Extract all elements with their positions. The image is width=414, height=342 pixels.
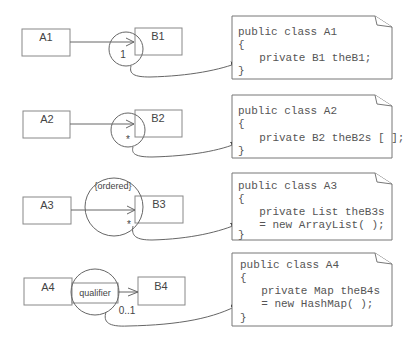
code-link-curve-1 (131, 62, 240, 77)
association-row-1: A1 B1 1 public class A1 { private B1 the… (22, 16, 392, 79)
association-row-4: A4 qualifier B4 0..1 public class A4 { p… (24, 253, 392, 326)
association-row-2: A2 B2 * public class A2 { private B2 the… (23, 95, 404, 158)
code-line: private List theB3s (246, 206, 385, 218)
code-line: public class A1 (238, 26, 337, 38)
code-line: public class A4 (240, 259, 339, 271)
class-label-b2: B2 (151, 112, 164, 124)
code-line: private Map theB4s (248, 285, 380, 297)
code-line: { (238, 39, 245, 51)
multiplicity-label-4: 0..1 (119, 305, 136, 316)
code-line: } (238, 65, 245, 77)
class-label-b1: B1 (151, 30, 164, 42)
class-label-a3: A3 (40, 199, 53, 211)
code-note-a3: public class A3 { private List theB3s = … (232, 173, 392, 241)
code-line: { (240, 272, 247, 284)
code-line: { (238, 118, 245, 130)
class-label-a1: A1 (39, 31, 52, 43)
association-row-3: A3 B3 {ordered} * public class A3 { priv… (23, 173, 392, 241)
code-line: private B1 theB1; (246, 52, 371, 64)
multiplicity-label-1: 1 (120, 49, 126, 60)
code-line: = new HashMap( ); (248, 298, 373, 310)
code-line: } (240, 312, 247, 324)
code-line: } (238, 229, 245, 241)
qualifier-label: qualifier (79, 288, 111, 298)
code-line: } (238, 145, 245, 157)
code-line: private B2 theB2s [ ]; (246, 132, 404, 144)
constraint-label-ordered: {ordered} (94, 181, 131, 191)
code-link-curve-2 (133, 142, 240, 157)
code-note-a4: public class A4 { private Map theB4s = n… (232, 253, 392, 326)
code-note-a1: public class A1 { private B1 theB1; } (232, 16, 392, 79)
multiplicity-label-3: * (127, 219, 131, 230)
code-note-a2: public class A2 { private B2 theB2s [ ];… (232, 95, 404, 158)
code-line: = new ArrayList( ); (246, 219, 385, 231)
code-line: public class A3 (238, 180, 337, 192)
multiplicity-label-2: * (126, 134, 130, 145)
class-label-b3: B3 (152, 198, 165, 210)
class-label-a4: A4 (41, 281, 54, 293)
code-line: public class A2 (238, 105, 337, 117)
code-link-curve-3 (133, 223, 240, 240)
code-line: { (238, 193, 245, 205)
uml-association-diagram: A1 B1 1 public class A1 { private B1 the… (0, 0, 414, 342)
class-label-a2: A2 (40, 113, 53, 125)
class-label-b4: B4 (154, 280, 167, 292)
